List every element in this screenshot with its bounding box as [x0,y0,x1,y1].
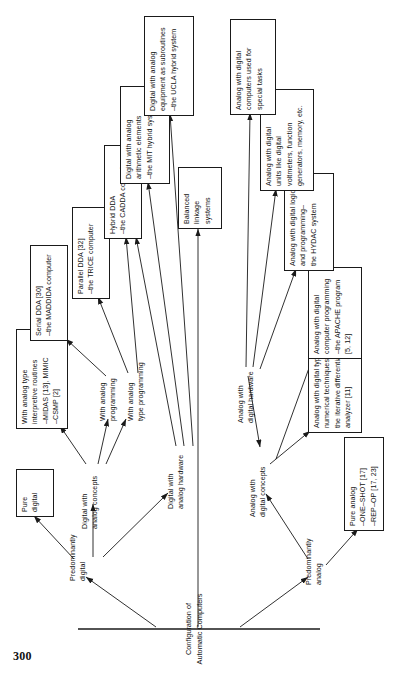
edge-concepts-to-with-analog-programming [98,419,108,464]
edge-digital-concepts-to-iterative-analyzer [270,431,310,464]
branch-label-with-analog-type-programming: With analog type programming [126,345,147,421]
diagram-canvas: Configuration of Automatic Computers Pre… [8,9,388,669]
branch-label-analog-with-digital-concepts: Analog with digital concepts [248,443,269,517]
edge-concepts-to-with-analog-type-programming [106,419,126,464]
node-pure-digital[interactable]: Pure digital [16,469,54,517]
page-number: 300 [13,649,32,664]
edge-digital-hardware-to-digital-units [253,189,276,367]
node-digital-computers-special-tasks[interactable]: Analog with digital computers used for s… [230,19,276,115]
edge-analog-to-digital-concepts [266,494,308,559]
edge-root-to-predominantly-digital [86,577,156,627]
branch-label-with-analog-programming: With analog programming [98,359,119,421]
edge-analog-to-pure-analog [326,529,358,565]
edge-root-to-predominantly-analog [240,577,308,627]
node-balanced-linkage[interactable]: Balanced linkage systems [178,167,222,229]
edge-digital-hardware-to-hydac [260,269,296,369]
root-label: Configuration of Automatic Computers [183,579,205,678]
edge-digital-to-analog-hardware [103,493,168,557]
node-pure-analog[interactable]: Pure analog –ONE–SHOT [17] –REP–OP [17, … [344,437,384,531]
node-serial-dda[interactable]: Serial DDA [30] –the MADDIDA computer [30,245,68,341]
branch-label-digital-with-analog-concepts: Digital with analog concepts [80,459,101,529]
branch-label-digital-with-analog-hardware: Digital with analog hardware [166,439,187,509]
rotated-figure-wrapper: Configuration of Automatic Computers Pre… [8,9,388,669]
node-apache-program[interactable]: Analog with digital computer programming… [308,267,362,359]
edge-digital-hardware-to-special-tasks [246,113,250,367]
branch-label-analog-with-digital-hardware: Analog with digital hardware [236,351,257,423]
branch-label-predominantly-analog: Predominantly analog [304,515,325,585]
node-ucla-hybrid[interactable]: Digital with analog equipment as subrout… [144,16,194,116]
node-analog-interpretive-routines[interactable]: With analog type interpretive routines –… [16,329,68,429]
edge-analog-hardware-to-ucla-hybrid [170,114,193,446]
